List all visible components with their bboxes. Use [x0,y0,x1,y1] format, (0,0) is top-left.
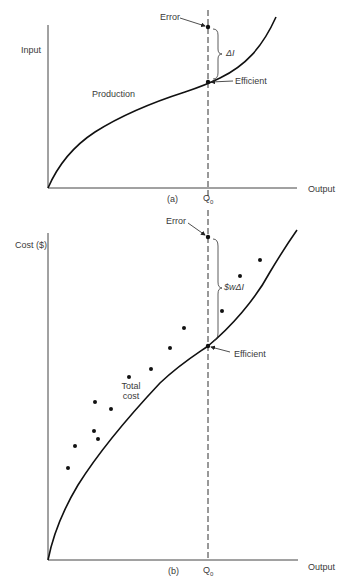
q0-label-b: Q0 [203,566,213,577]
panel-b [48,210,298,560]
efficient-arrow-b [211,347,230,352]
total-cost-label: Total cost [117,382,145,401]
efficient-label-b: Efficient [234,350,266,359]
efficient-label-a: Efficient [235,77,267,86]
error-point-a [206,25,210,29]
diagram-canvas [0,0,353,581]
delta-i-label: ΔI [226,49,235,58]
total-cost-line1: Total [117,382,145,391]
caption-a: (a) [167,195,178,204]
error-point-b [206,235,210,239]
production-curve [48,17,276,188]
q0-sub-a: 0 [210,199,213,205]
q0-text-a: Q [203,193,210,203]
production-label: Production [92,90,135,99]
brace-b [213,239,222,341]
q0-text-b: Q [203,565,210,575]
y-axis-label-a: Input [21,46,41,55]
y-axis-label-b: Cost ($) [15,241,47,250]
q0-sub-b: 0 [210,571,213,577]
efficient-point-a [206,80,210,84]
brace-a [213,29,222,79]
total-cost-line2: cost [117,392,145,401]
error-arrow-a [180,18,205,26]
error-label-a: Error [160,13,180,22]
swdi-label: $wΔI [224,283,244,292]
total-cost-curve [48,230,297,560]
x-axis-label-a: Output [308,185,335,194]
panel-a [48,10,297,200]
efficient-point-b [206,344,210,348]
x-axis-label-b: Output [308,563,335,572]
q0-label-a: Q0 [203,194,213,205]
error-label-b: Error [166,217,186,226]
error-arrow-b [188,223,205,235]
caption-b: (b) [168,567,179,576]
